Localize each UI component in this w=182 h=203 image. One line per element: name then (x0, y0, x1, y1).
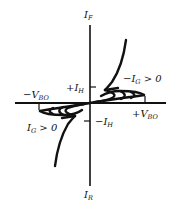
label-plus-vbo: +VBO (132, 108, 159, 121)
label-plus-ih: +IH (66, 82, 84, 95)
label-minus-vbo: −VBO (23, 89, 50, 102)
forward-curve (90, 40, 144, 103)
axis-label-if: IF (83, 9, 93, 22)
axis-label-ir: IR (83, 189, 93, 202)
label-minus-ih: −IH (95, 116, 113, 129)
reverse-curve (40, 103, 90, 166)
iv-characteristic-diagram: IF IR +IH −IH −VBO +VBO −IG > 0 IG > 0 (0, 0, 182, 203)
label-gate-q3: IG > 0 (26, 122, 58, 135)
label-gate-q1: −IG > 0 (123, 73, 162, 86)
